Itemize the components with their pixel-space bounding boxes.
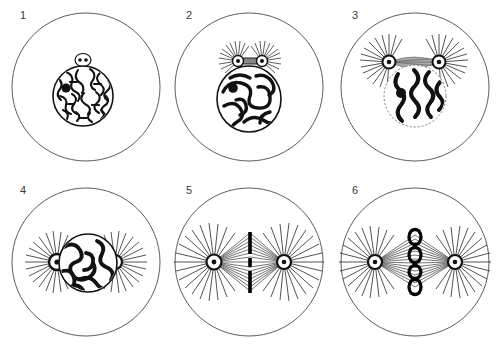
centrosome-pair [233, 56, 268, 67]
centrosome-right [448, 255, 462, 269]
panel-2-field [166, 0, 332, 174]
nucleolus [396, 88, 406, 98]
nucleolus [228, 83, 238, 93]
panel-3-field [332, 0, 498, 174]
panel-6: 6 [332, 175, 498, 349]
nucleus [384, 65, 446, 127]
centrosome-left [368, 255, 382, 269]
centrosome-right [277, 255, 291, 269]
centrosome-group [75, 54, 91, 67]
mitosis-figure: 1 [0, 0, 499, 349]
nucleus [59, 234, 117, 292]
panel-1: 1 [0, 0, 166, 174]
nucleus [217, 66, 281, 135]
panel-4-field [0, 175, 166, 349]
panel-1-field [0, 0, 166, 174]
panel-2: 2 [166, 0, 332, 174]
panel-3: 3 [332, 0, 498, 174]
nucleus [53, 66, 113, 126]
nucleolus [61, 83, 70, 92]
panel-5-field [166, 175, 332, 349]
panel-4: 4 [0, 175, 166, 349]
panel-5: 5 [166, 175, 332, 349]
panel-6-field [332, 175, 498, 349]
centrosome-left [207, 255, 222, 270]
